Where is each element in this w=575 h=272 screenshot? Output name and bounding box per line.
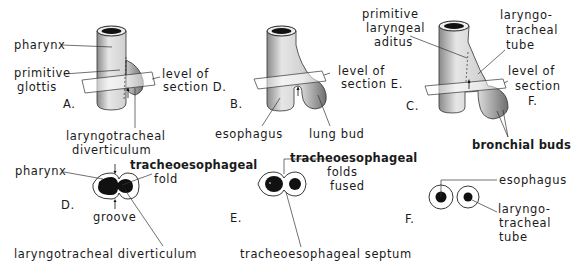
label-c-aditus-line2: laryngeal: [366, 22, 425, 35]
label-d-fold-line1: tracheoesophageal: [130, 159, 258, 172]
panel-label-d: D.: [61, 199, 75, 212]
label-f-tube-line3: tube: [499, 231, 528, 244]
label-c-aditus-line1: primitive: [362, 8, 419, 21]
label-d-fold-line2: fold: [154, 173, 178, 186]
panel-c-drawing: [425, 21, 508, 119]
panel-a-drawing: [82, 26, 155, 110]
panel-label-c: C.: [406, 100, 419, 113]
label-f-tube-line1: laryngo-: [498, 203, 551, 216]
label-d-diverticulum: laryngotracheal diverticulum: [14, 248, 197, 261]
label-c-level-line3: F.: [528, 95, 538, 108]
label-e-septum: tracheoesophageal septum: [240, 248, 412, 261]
label-d-groove: groove: [93, 211, 136, 224]
label-c-tube-line3: tube: [506, 39, 535, 52]
label-e-folds-line3: fused: [330, 180, 365, 193]
label-c-level-line1: level of: [508, 65, 555, 78]
label-e-folds-line2: folds: [327, 166, 358, 179]
label-a-primitive-glottis-line1: primitive: [14, 67, 71, 80]
label-c-tube-line1: laryngo-: [500, 9, 553, 22]
label-b-lung-bud: lung bud: [309, 128, 364, 141]
panel-b-drawing: [254, 26, 326, 111]
label-a-pharynx: pharynx: [14, 39, 65, 52]
label-b-esophagus: esophagus: [215, 128, 283, 141]
label-b-level-line2: section E.: [341, 78, 403, 91]
panel-label-a: A.: [63, 98, 76, 111]
label-f-esophagus: esophagus: [499, 174, 567, 187]
label-a-level-line2: section D.: [163, 81, 227, 94]
label-f-tube-line2: tracheal: [499, 217, 551, 230]
panel-label-e: E.: [230, 212, 242, 225]
panel-e-section: [258, 172, 306, 196]
panel-e-leaders: [284, 159, 325, 247]
label-a-primitive-glottis-line2: glottis: [17, 81, 57, 94]
label-e-folds-line1: tracheoesophageal: [290, 152, 418, 165]
label-c-level-line2: section: [515, 80, 561, 93]
panel-label-b: B.: [230, 98, 243, 111]
label-c-bronchial-buds: bronchial buds: [472, 139, 571, 152]
label-a-diverticulum-line2: diverticulum: [72, 144, 151, 157]
label-a-diverticulum-line1: laryngotracheal: [66, 130, 166, 143]
label-c-aditus-line3: aditus: [374, 36, 413, 49]
panel-f-section: [429, 185, 479, 209]
label-c-tube-line2: tracheal: [506, 24, 558, 37]
label-d-pharynx: pharynx: [15, 165, 66, 178]
panel-label-f: F.: [405, 213, 415, 226]
